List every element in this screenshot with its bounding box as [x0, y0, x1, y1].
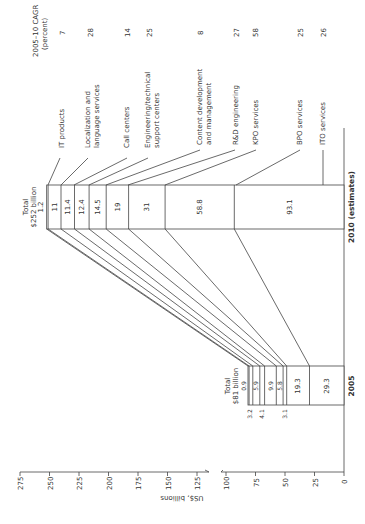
segment-value-call-centers-2005: 5.9: [252, 381, 259, 391]
axis-ticks: [20, 472, 344, 476]
segment-value-localization-2010: 11: [51, 203, 59, 212]
segment-value-rnd-2010: 19: [114, 203, 122, 212]
stacked-bar-chart: 275 250 225 200 175 150 125 100 75 50 25…: [0, 0, 365, 524]
total-2005-line1: Total: [224, 378, 232, 395]
segment-value-call-centers-2010: 11.4: [64, 199, 72, 215]
cagr-bpo: 25: [297, 28, 305, 37]
tick-label: 0: [341, 480, 349, 484]
tick-label: 200: [106, 477, 114, 490]
cagr-localization: 28: [87, 28, 95, 37]
segment-value-localization-2005: 3.2: [246, 409, 253, 419]
cagr-engineering: 25: [146, 28, 154, 37]
segment-value-bpo-2010: 58.8: [196, 199, 204, 215]
label-content-line2: and management: [205, 82, 213, 145]
total-2005-line2: $81 billion: [232, 368, 240, 405]
tick-label: 125: [194, 477, 202, 490]
label-localization-line1: Localization and: [84, 91, 92, 148]
segment-value-rnd-2005: 5.8: [276, 381, 283, 391]
cagr-kpo: 58: [252, 28, 260, 37]
total-2005: Total $81 billion: [224, 368, 240, 405]
label-it-products: IT products: [58, 109, 66, 148]
tick-label: 100: [223, 477, 231, 490]
tick-label: 75: [253, 478, 261, 487]
segment-value-kpo-2005: 3.1: [281, 409, 288, 419]
segment-value-ito-2010: 93.1: [286, 199, 294, 215]
segment-value-kpo-2010: 31: [143, 203, 151, 212]
tick-label: 275: [17, 477, 25, 490]
segment-value-content-2005: 9.9: [267, 381, 274, 391]
axis-tick-labels: 275 250 225 200 175 150 125 100 75 50 25…: [17, 477, 349, 490]
category-label-2005: 2005: [347, 376, 356, 397]
total-2010-line1: Total: [22, 199, 30, 216]
label-call-centers: Call centers: [123, 106, 131, 148]
leader-lines: [48, 150, 323, 185]
label-engineering-line1: Engineering/technical: [144, 72, 152, 148]
label-ito: ITO services: [319, 102, 327, 145]
cagr-call-centers: 14: [124, 28, 132, 37]
segment-value-engineering-2005: 4.1: [258, 409, 265, 419]
tick-label: 175: [135, 477, 143, 490]
label-engineering-line2: support centers: [153, 92, 161, 148]
segment-value-engineering-2010: 12.4: [78, 199, 86, 215]
total-2010-line2: $252 billion: [30, 187, 38, 228]
label-bpo: BPO services: [296, 99, 304, 145]
axis-title: US$, billions: [160, 494, 203, 502]
label-kpo: KPO services: [252, 99, 260, 145]
segment-value-it-products-2010: 1.2: [37, 201, 45, 212]
segment-value-bpo-2005: 19.3: [294, 378, 302, 394]
tick-label: 225: [76, 477, 84, 490]
cagr-header-line1: 2005–10 CAGR: [32, 5, 40, 57]
label-localization-line2: language services: [93, 84, 101, 148]
segment-value-ito-2005: 29.3: [323, 378, 331, 394]
cagr-rnd: 27: [233, 28, 241, 37]
cagr-header-line2: (percent): [41, 17, 49, 50]
value-axis: 275 250 225 200 175 150 125 100 75 50 25…: [17, 470, 349, 502]
bar-2005: 29.3 19.3 3.1 5.8 9.9 4.1 5.9 3.2 0.9 To…: [224, 366, 356, 419]
cagr-column: 2005–10 CAGR (percent) 7 28 14 25 8 27 5…: [32, 5, 328, 57]
cagr-ito: 26: [320, 28, 328, 37]
tick-label: 25: [312, 478, 320, 487]
cagr-it-products: 7: [59, 31, 67, 35]
label-content-line1: Content development: [196, 69, 204, 145]
total-2010: Total $252 billion: [22, 187, 38, 228]
tick-label: 250: [47, 477, 55, 490]
tick-label: 50: [282, 478, 290, 487]
category-label-2010: 2010 (estimates): [347, 171, 356, 243]
segment-value-it-products-2005: 0.9: [240, 381, 247, 391]
label-rnd: R&D engineering: [232, 85, 240, 145]
tick-label: 150: [165, 477, 173, 490]
cagr-content: 8: [197, 31, 205, 35]
connector-lines: [47, 229, 310, 366]
bar-2010: 93.1 58.8 31 19 14.5 12.4 11.4 11 1.2 To…: [22, 171, 356, 243]
segment-value-content-2010: 14.5: [94, 199, 102, 215]
series-labels: IT products Localization and language se…: [58, 69, 327, 148]
